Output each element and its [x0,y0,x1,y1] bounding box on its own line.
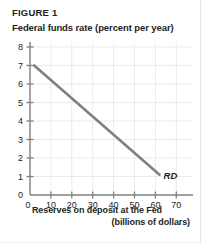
x-axis-title: Reserves on deposit at the Fed (billions… [0,205,194,228]
x-axis-title-line1: Reserves on deposit at the Fed [32,205,162,215]
y-tick-label: 1 [18,172,23,182]
y-tick-label: 8 [18,42,23,52]
y-tick-label: 5 [18,98,23,108]
curve-label-rd: RD [164,170,178,181]
y-tick-label: 4 [18,116,23,126]
y-tick-label: 7 [18,61,23,71]
y-tick-label: 0 [18,190,23,200]
y-tick-label: 3 [18,135,23,145]
axis-tick-labels: 012345678010203040506070 [18,42,181,210]
y-tick-label: 2 [18,153,23,163]
x-axis-title-line2: (billions of dollars) [0,217,194,229]
y-tick-label: 6 [18,79,23,89]
figure-card: FIGURE 1 Federal funds rate (percent per… [0,0,201,243]
curve-annotation: RD [164,170,178,181]
